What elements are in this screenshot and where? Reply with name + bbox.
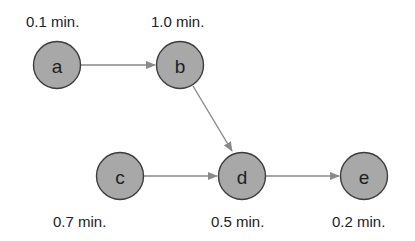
node-b: b 1.0 min. [151, 13, 204, 89]
node-a: a 0.1 min. [26, 13, 81, 89]
node-e-label: e [359, 167, 370, 188]
node-c-time: 0.7 min. [53, 213, 106, 230]
node-c: c 0.7 min. [53, 153, 144, 231]
node-b-time: 1.0 min. [151, 13, 204, 30]
node-a-label: a [52, 56, 63, 77]
node-a-time: 0.1 min. [26, 13, 79, 30]
node-d-time: 0.5 min. [211, 213, 264, 230]
node-d: d 0.5 min. [211, 153, 266, 231]
node-c-label: c [115, 167, 125, 188]
precedence-diagram: a 0.1 min. b 1.0 min. c 0.7 min. d 0.5 m… [0, 0, 415, 241]
node-b-label: b [175, 56, 186, 77]
node-e-time: 0.2 min. [332, 213, 385, 230]
node-d-label: d [237, 167, 248, 188]
node-e: e 0.2 min. [332, 153, 388, 231]
edge-b-to-d [193, 86, 232, 151]
